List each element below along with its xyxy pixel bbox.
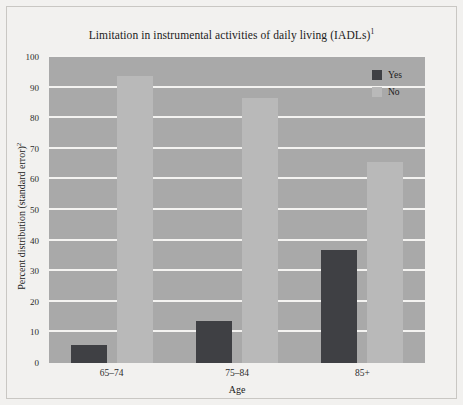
y-axis-tick-label: 60 bbox=[30, 174, 39, 184]
gridline bbox=[49, 55, 425, 57]
bar-85+-yes bbox=[321, 250, 357, 363]
gridline bbox=[49, 86, 425, 88]
chart-title: Limitation in instrumental activities of… bbox=[0, 27, 463, 41]
chart-legend: YesNo bbox=[372, 66, 432, 100]
y-axis-tick-label: 70 bbox=[30, 144, 39, 154]
y-axis-tick-label: 50 bbox=[30, 205, 39, 215]
plot-area bbox=[49, 57, 425, 363]
x-axis-title: Age bbox=[49, 384, 425, 395]
y-axis-tick-label: 30 bbox=[30, 266, 39, 276]
bar-7584-yes bbox=[196, 321, 232, 363]
legend-item-yes: Yes bbox=[372, 66, 432, 83]
y-axis-tick-label: 20 bbox=[30, 297, 39, 307]
y-axis-tick-label: 90 bbox=[30, 83, 39, 93]
bar-6574-yes bbox=[71, 345, 107, 363]
bar-6574-no bbox=[117, 76, 153, 363]
y-axis-tick-label: 40 bbox=[30, 236, 39, 246]
y-axis-tick-label: 80 bbox=[30, 113, 39, 123]
chart-figure: Limitation in instrumental activities of… bbox=[0, 0, 463, 405]
x-axis-tick-labels: 65–7475–8485+ bbox=[49, 368, 425, 384]
legend-swatch-icon bbox=[372, 70, 382, 80]
x-axis-tick-label: 85+ bbox=[355, 368, 370, 378]
x-axis-tick-label: 75–84 bbox=[225, 368, 249, 378]
y-axis-tick-label: 10 bbox=[30, 327, 39, 337]
gridline bbox=[49, 116, 425, 118]
y-axis-tick-label: 100 bbox=[26, 52, 40, 62]
legend-item-no: No bbox=[372, 83, 432, 100]
bar-7584-no bbox=[242, 98, 278, 363]
legend-label: No bbox=[388, 87, 400, 97]
x-axis-tick-label: 65–74 bbox=[100, 368, 124, 378]
legend-swatch-icon bbox=[372, 87, 382, 97]
chart-title-text: Limitation in instrumental activities of… bbox=[89, 29, 371, 41]
y-axis-tick-labels: 0102030405060708090100 bbox=[0, 57, 45, 363]
bar-85+-no bbox=[367, 162, 403, 363]
chart-title-footnote-marker: 1 bbox=[370, 27, 374, 36]
legend-label: Yes bbox=[388, 70, 402, 80]
y-axis-tick-label: 0 bbox=[35, 358, 40, 368]
gridline bbox=[49, 147, 425, 149]
